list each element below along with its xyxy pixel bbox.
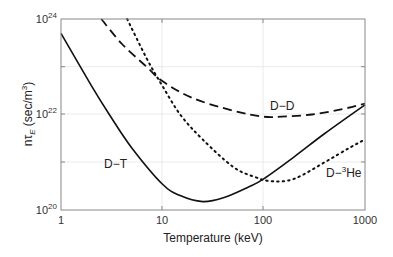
- y-axis-label: nτE (sec/m3): [20, 82, 37, 147]
- y-tick-1e24: 1024: [36, 11, 58, 25]
- series-d-d: [101, 19, 365, 117]
- x-tick-10: 10: [156, 214, 168, 226]
- x-tick-1: 1: [58, 214, 64, 226]
- tick-marks: [61, 19, 365, 210]
- annotation-d-d: D−D: [270, 99, 295, 113]
- x-tick-100: 100: [254, 214, 272, 226]
- x-tick-1000: 1000: [353, 214, 377, 226]
- annotation-d-t: D−T: [104, 157, 128, 171]
- y-tick-1e22: 1022: [36, 106, 58, 120]
- axes-frame: [61, 19, 365, 210]
- x-axis-label: Temperature (keV): [163, 231, 262, 245]
- grid: [61, 19, 365, 210]
- chart: 1 10 100 1000 1020 1022 1024 Temperature…: [0, 0, 393, 257]
- series-d-3he: [127, 19, 365, 181]
- y-tick-1e20: 1020: [36, 202, 58, 216]
- annotation-d-3he: D−3He: [326, 165, 362, 180]
- series-d-t: [61, 33, 365, 201]
